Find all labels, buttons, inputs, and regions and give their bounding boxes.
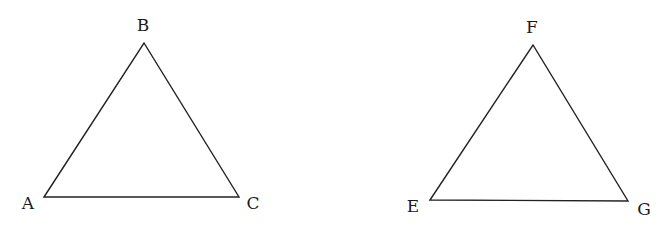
vertex-label-a: A [21, 193, 35, 213]
vertex-label-f: F [526, 17, 538, 37]
triangle-abc [44, 43, 239, 197]
vertex-label-c: C [246, 193, 259, 213]
vertex-label-g: G [637, 199, 651, 219]
vertex-label-b: B [137, 15, 150, 35]
triangles-diagram: A B C E F G [0, 0, 665, 239]
vertex-label-e: E [407, 196, 419, 216]
triangle-efg [430, 45, 628, 201]
